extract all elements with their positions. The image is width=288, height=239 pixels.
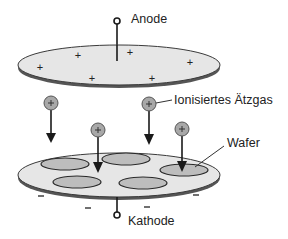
- cathode-terminal: [114, 197, 120, 218]
- plasma-etching-diagram: + + + + + +: [0, 0, 288, 239]
- svg-text:+: +: [149, 72, 155, 84]
- wafer-leader-line: [195, 146, 224, 167]
- svg-text:+: +: [37, 61, 43, 73]
- svg-text:+: +: [127, 46, 133, 58]
- svg-text:+: +: [89, 72, 95, 84]
- svg-text:+: +: [75, 49, 81, 61]
- cathode-label: Kathode: [128, 214, 175, 228]
- svg-text:+: +: [187, 56, 193, 68]
- ion-2: [142, 97, 172, 145]
- anode-label: Anode: [131, 12, 167, 26]
- ion-1: [44, 96, 58, 143]
- ionized-gas-label: Ionisiertes Ätzgas: [174, 93, 273, 107]
- wafer-label: Wafer: [227, 136, 260, 150]
